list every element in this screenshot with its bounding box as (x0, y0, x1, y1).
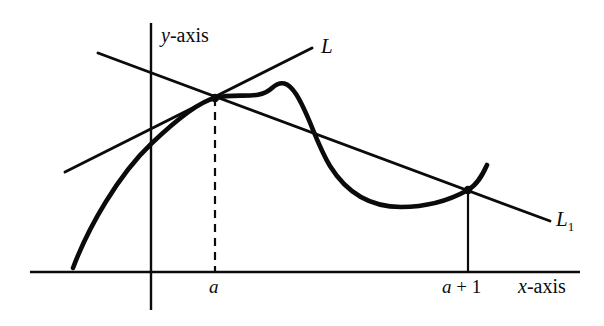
x-axis-label-suffix: -axis (527, 275, 566, 297)
figure-canvas (0, 0, 604, 326)
x-axis-label-variable: x (518, 275, 527, 297)
secant-line-l1 (98, 53, 550, 221)
y-axis-label: y-axis (161, 25, 209, 45)
secant-line-label-subscript: 1 (568, 219, 575, 234)
tick-label-a-plus-1-variable: a (442, 276, 452, 297)
x-axis-label: x-axis (518, 276, 566, 296)
tangent-line-label: L (321, 36, 333, 57)
y-axis-label-suffix: -axis (170, 24, 209, 46)
math-figure: y-axis x-axis a a + 1 L L1 (0, 0, 604, 326)
secant-line-label-base: L (556, 207, 568, 231)
secant-line-label: L1 (556, 209, 574, 233)
tangency-point-marker (211, 94, 219, 102)
y-axis-label-variable: y (161, 24, 170, 46)
tick-label-a: a (209, 277, 219, 296)
tick-label-a-plus-1: a + 1 (442, 277, 481, 296)
tick-label-a-plus-1-suffix: + 1 (452, 276, 482, 297)
curve-point-a-plus-1-marker (464, 186, 472, 194)
